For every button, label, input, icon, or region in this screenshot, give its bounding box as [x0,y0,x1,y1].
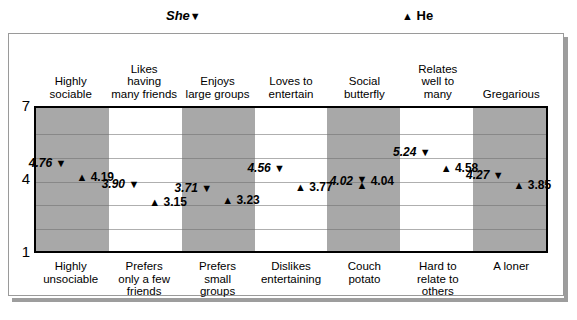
bottom-label-6: Hard to relate to others [401,256,474,298]
gridline-6 [36,134,546,135]
she-marker-icon-2: ▼ [128,178,139,190]
top-label-3: Enjoys large groups [181,75,254,102]
top-label-7: Gregarious [475,88,548,103]
gridline-3 [36,205,546,206]
she-value-3: 3.71 [175,181,198,195]
he-value-2: 3.15 [164,195,187,209]
legend-he-marker-icon: ▲ [402,11,413,22]
bottom-label-5: Couch potato [328,256,401,285]
he-marker-icon-6: ▲ [441,162,452,174]
she-marker-2: 3.90 ▼ [102,178,140,190]
bottom-label-4: Dislikes entertaining [254,256,327,285]
she-value-6: 5.24 [393,145,416,159]
she-value-1: 4.76 [29,156,52,170]
top-adjective-labels: Highly sociableLikes having many friends… [34,47,548,102]
top-label-5: Social butterfly [328,75,401,102]
y-axis-tick-4: 4 [8,170,30,187]
y-axis-tick-1: 1 [8,243,30,260]
she-marker-icon-7: ▼ [493,169,504,181]
she-marker-icon-3: ▼ [201,182,212,194]
he-marker-icon-2: ▲ [149,196,160,208]
she-marker-7: 4.27 ▼ [466,169,504,181]
she-value-4: 4.56 [247,161,270,175]
he-marker-icon-7: ▲ [514,179,525,191]
he-marker-7: ▲ 3.85 [514,179,552,191]
he-marker-icon-1: ▲ [76,171,87,183]
he-marker-icon-3: ▲ [222,194,233,206]
legend-item-she: She▼ [166,8,201,23]
bottom-label-7: A loner [475,256,548,273]
plot-area: 4.76 ▼▲ 4.193.90 ▼▲ 3.153.71 ▼▲ 3.234.56… [34,106,548,253]
top-label-1: Highly sociable [34,75,107,102]
chart-legend: She▼ ▲ He [0,8,577,32]
bottom-label-1: Highly unsociable [34,256,107,285]
he-marker-3: ▲ 3.23 [222,194,260,206]
bottom-label-2: Prefers only a few friends [107,256,180,298]
she-marker-icon-6: ▼ [420,146,431,158]
she-value-2: 3.90 [102,177,125,191]
he-marker-4: ▲ 3.77 [295,181,333,193]
he-value-7: 3.85 [528,178,551,192]
top-label-2: Likes having many friends [107,63,180,103]
she-value-7: 4.27 [466,168,489,182]
she-value-5: 4.02 [330,173,353,187]
top-label-4: Loves to entertain [254,75,327,102]
legend-item-he: ▲ He [402,8,433,23]
chart-root: She▼ ▲ He Highly sociableLikes having ma… [0,0,577,320]
legend-she-marker-icon: ▼ [190,11,201,22]
she-marker-icon-1: ▼ [56,157,67,169]
he-value-5: 4.04 [371,173,394,187]
card-shadow-right [564,37,568,302]
he-value-3: 3.23 [236,193,259,207]
she-marker-6: 5.24 ▼ [393,146,431,158]
she-marker-4: 4.56 ▼ [247,162,285,174]
she-marker-3: 3.71 ▼ [175,182,213,194]
top-label-6: Relates well to many [401,63,474,103]
bottom-adjective-labels: Highly unsociablePrefers only a few frie… [34,256,548,311]
legend-he-label: He [417,8,434,23]
y-axis-tick-7: 7 [8,97,30,114]
gridline-5 [36,158,546,159]
gridline-2 [36,229,546,230]
he-marker-2: ▲ 3.15 [149,196,187,208]
she-marker-1: 4.76 ▼ [29,157,67,169]
he-marker-icon-4: ▲ [295,181,306,193]
bottom-label-3: Prefers small groups [181,256,254,298]
legend-she-label: She [166,8,190,23]
data-marker-pair-5: 4.02 ▼▲ 4.04 [330,174,394,187]
overlapped-marker-icon-5: ▼▲ [356,175,367,187]
she-marker-icon-4: ▼ [274,162,285,174]
